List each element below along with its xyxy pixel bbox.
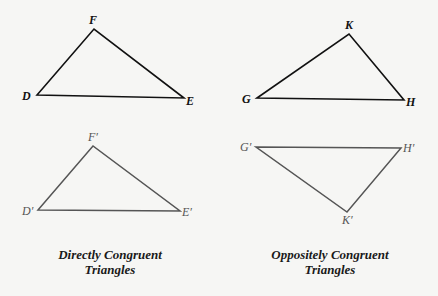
vertex-label: H′: [402, 141, 415, 155]
vertex-label: E: [185, 94, 194, 108]
caption-right-line2: Triangles: [240, 262, 420, 277]
vertex-label: D: [21, 89, 31, 103]
triangle-outline: [257, 34, 404, 100]
triangle-outline: [37, 29, 184, 98]
caption-left-line2: Triangles: [20, 262, 200, 277]
vertex-label: D′: [21, 204, 34, 218]
vertex-label: K′: [341, 213, 353, 227]
vertex-label: G′: [240, 140, 252, 154]
vertex-label: G: [242, 92, 251, 106]
caption-directly-congruent: Directly Congruent Triangles: [20, 247, 200, 277]
triangle-outline: [256, 147, 401, 212]
vertex-label: H: [405, 95, 416, 109]
caption-right-line1: Oppositely Congruent: [240, 247, 420, 262]
vertex-label: K: [344, 18, 354, 32]
triangle-outline: [38, 146, 180, 211]
triangle-def-prime: D′F′E′: [21, 130, 192, 219]
congruent-triangles-diagram: DFE GKH D′F′E′ G′H′K′ Directly Congruent…: [0, 0, 438, 296]
vertex-label: F′: [87, 130, 98, 144]
caption-left-line1: Directly Congruent: [20, 247, 200, 262]
vertex-label: E′: [181, 205, 192, 219]
triangle-ghk: GKH: [242, 18, 416, 109]
vertex-label: F: [88, 13, 97, 27]
triangle-ghk-prime: G′H′K′: [240, 140, 415, 227]
caption-oppositely-congruent: Oppositely Congruent Triangles: [240, 247, 420, 277]
triangle-def: DFE: [21, 13, 194, 108]
